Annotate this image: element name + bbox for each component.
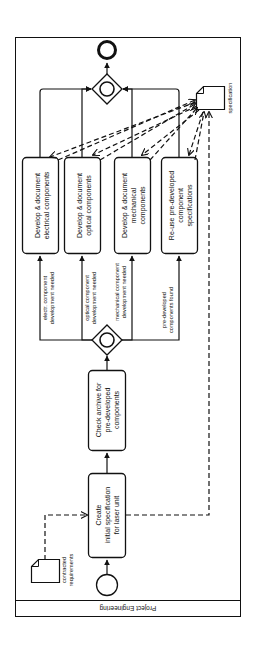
svg-text:optical component: optical component bbox=[84, 275, 90, 321]
svg-text:components: components bbox=[139, 186, 147, 225]
svg-text:component: component bbox=[177, 188, 185, 223]
svg-text:Develop & document: Develop & document bbox=[34, 173, 42, 238]
task-dev-electrical[interactable]: Develop & document electrical components bbox=[23, 158, 59, 254]
svg-text:development needed: development needed bbox=[121, 266, 127, 318]
task-dev-optical[interactable]: Develop & document optical components bbox=[65, 158, 101, 254]
specification-label: specification bbox=[227, 83, 233, 114]
svg-text:mechanical: mechanical bbox=[130, 187, 137, 223]
svg-text:requirements: requirements bbox=[68, 553, 74, 586]
svg-text:for laser unit: for laser unit bbox=[113, 496, 120, 535]
svg-text:components: components bbox=[113, 390, 121, 429]
svg-text:Develop & document: Develop & document bbox=[121, 173, 129, 238]
flow-label-predeveloped: pre-developed components found bbox=[161, 287, 174, 333]
pool: Project Engineering bbox=[16, 38, 241, 617]
end-event[interactable] bbox=[99, 42, 116, 59]
svg-text:pre-developed: pre-developed bbox=[104, 388, 112, 433]
svg-text:components found: components found bbox=[168, 287, 174, 333]
svg-text:contracted: contracted bbox=[61, 557, 67, 583]
svg-text:mechanical component: mechanical component bbox=[114, 263, 120, 321]
pool-label: Project Engineering bbox=[99, 604, 156, 612]
flow-label-optical: optical component development needed bbox=[84, 272, 97, 324]
start-event[interactable] bbox=[97, 575, 118, 596]
svg-text:Re-use pre-developed: Re-use pre-developed bbox=[168, 171, 176, 240]
svg-text:electr. component: electr. component bbox=[42, 275, 48, 320]
task-dev-mechanical[interactable]: Develop & document mechanical components bbox=[115, 158, 151, 254]
svg-text:optical components: optical components bbox=[85, 175, 93, 236]
task-check-archive[interactable]: Check archive for pre-developed componen… bbox=[89, 371, 126, 451]
task-reuse-specs[interactable]: Re-use pre-developed component specifica… bbox=[162, 158, 198, 254]
svg-text:electrical components: electrical components bbox=[43, 171, 51, 239]
flow-label-mechanical: mechanical component development needed bbox=[114, 263, 127, 321]
contracted-requirements-label: contracted requirements bbox=[61, 553, 74, 586]
svg-text:Develop & document: Develop & document bbox=[76, 173, 84, 238]
bpmn-diagram: Project Engineering Create initial speci… bbox=[0, 0, 253, 658]
svg-text:Create: Create bbox=[95, 504, 102, 525]
task-create-spec[interactable]: Create initial specification for laser u… bbox=[89, 474, 126, 558]
svg-text:development needed: development needed bbox=[91, 272, 97, 324]
svg-text:initial specification: initial specification bbox=[104, 487, 112, 544]
specification-data-object[interactable]: specification bbox=[197, 83, 234, 114]
svg-text:pre-developed: pre-developed bbox=[161, 292, 167, 328]
svg-text:development needed: development needed bbox=[49, 272, 55, 324]
svg-text:specifications: specifications bbox=[186, 184, 194, 227]
svg-text:Check archive for: Check archive for bbox=[95, 382, 102, 437]
flow-label-electrical: electr. component development needed bbox=[42, 272, 55, 324]
